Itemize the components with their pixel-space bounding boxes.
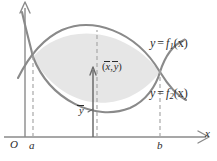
x-axis-label: x — [205, 128, 210, 139]
centroid-label: (x, y) — [102, 62, 122, 73]
centroid-ybar: y — [114, 62, 119, 73]
centroid-xbar: x — [106, 62, 111, 73]
centroid-comma: , — [110, 61, 113, 72]
curve-label-f2: y=f2(x) — [150, 87, 188, 101]
figure-canvas: y=f1(x) y=f2(x) (x, y) y O a b x — [0, 0, 217, 161]
curve-label-f1-eq: = — [155, 36, 166, 50]
curve-label-f2-eq: = — [155, 86, 166, 100]
curve-label-f1-arg: (x) — [174, 36, 188, 50]
math-diagram-svg — [0, 0, 217, 161]
curve-label-f2-arg: (x) — [174, 86, 188, 100]
centroid-close-paren: ) — [118, 61, 122, 72]
ybar-label: y — [79, 106, 84, 117]
x-tick-label-a: a — [29, 140, 35, 151]
origin-label: O — [10, 139, 18, 150]
x-tick-label-b: b — [157, 140, 163, 151]
ybar-symbol: y — [79, 106, 84, 117]
curve-label-f1: y=f1(x) — [150, 37, 188, 51]
